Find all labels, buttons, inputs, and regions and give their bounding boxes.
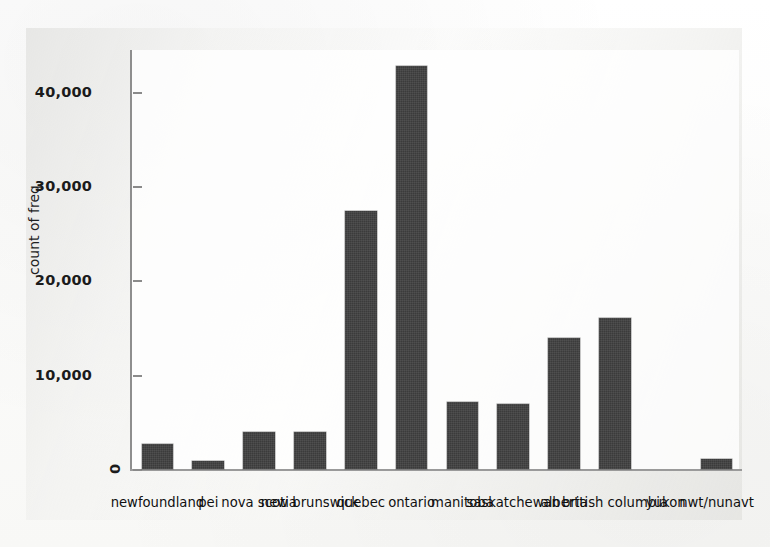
bar-new-brunswick xyxy=(294,432,326,469)
y-tick-mark-40000 xyxy=(133,92,142,94)
plot-area xyxy=(131,50,739,470)
y-tick-label-40000: 40,000 xyxy=(0,85,92,99)
bar-british-columbia xyxy=(599,318,631,469)
bar-ontario xyxy=(396,66,428,469)
bar-pei xyxy=(192,461,224,469)
y-tick-mark-20000 xyxy=(133,280,142,282)
bar-manitoba xyxy=(447,402,479,469)
y-tick-label-0: 0 xyxy=(107,458,123,480)
y-tick-label-10000: 10,000 xyxy=(0,368,92,382)
x-tick-label-ontario: ontario xyxy=(388,494,435,511)
bar-newfoundland xyxy=(142,444,174,469)
bar-nwt-nunavt xyxy=(701,459,733,469)
y-tick-mark-10000 xyxy=(133,375,142,377)
x-axis-tick-labels: newfoundlandpeinova scotianew brunswickq… xyxy=(0,494,770,520)
bar-nova-scotia xyxy=(243,432,275,469)
x-axis-spine xyxy=(130,469,742,471)
x-tick-label-newfoundland: newfoundland xyxy=(111,494,205,511)
y-tick-mark-0 xyxy=(133,469,142,471)
y-tick-mark-30000 xyxy=(133,186,142,188)
x-tick-label-nwt-nunavt: nwt/nunavt xyxy=(679,494,754,511)
x-tick-label-quebec: quebec xyxy=(336,494,385,511)
x-tick-label-pei: pei xyxy=(198,494,218,511)
bar-saskatchewan xyxy=(497,404,529,469)
bar-quebec xyxy=(345,211,377,469)
bar-alberta xyxy=(548,338,580,469)
figure-canvas: count of freq 40,000 30,000 20,000 10,00… xyxy=(0,0,770,547)
y-tick-label-20000: 20,000 xyxy=(0,273,92,287)
y-tick-label-30000: 30,000 xyxy=(0,179,92,193)
y-axis-spine xyxy=(130,50,132,470)
